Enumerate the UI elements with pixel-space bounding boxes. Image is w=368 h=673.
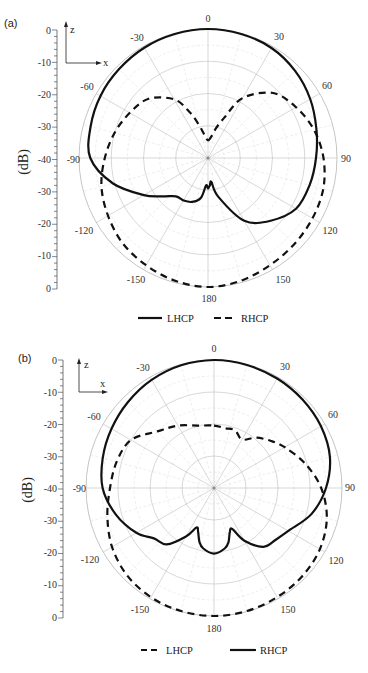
- radial-scale-axis: 0 -10 -20 -30 -40 -30 -20 -10 0: [38, 25, 57, 294]
- legend-label: LHCP: [167, 313, 194, 324]
- panel-b: (b) 0 -10 -20 -30 -40 -30 -20 -10 0 (dB)…: [18, 343, 355, 656]
- angle-label: -90: [73, 483, 86, 494]
- arrow-right-icon: [96, 61, 102, 65]
- scale-tick: -20: [44, 419, 57, 430]
- legend: LHCP RHCP: [141, 645, 288, 656]
- angle-label: 120: [329, 555, 344, 566]
- scale-tick: -20: [44, 547, 57, 558]
- angle-label: -120: [81, 554, 99, 565]
- angle-label: -120: [75, 225, 93, 236]
- angle-label: 0: [206, 13, 211, 24]
- lhcp-curve: [107, 425, 326, 616]
- panel-label: (a): [4, 17, 17, 29]
- polar-grid: [79, 29, 337, 287]
- scale-tick: -30: [38, 121, 51, 132]
- legend-label: RHCP: [241, 313, 269, 324]
- panel-a: (a) 0 -10 -20 -30 -40 -30 -20 -10 0 (dB)…: [4, 13, 351, 324]
- legend: LHCP RHCP: [138, 313, 269, 324]
- scale-tick: -40: [38, 154, 51, 165]
- angle-label: 180: [207, 623, 222, 634]
- angle-label: -60: [80, 81, 93, 92]
- angle-label: -60: [87, 411, 100, 422]
- angle-label: 150: [276, 274, 291, 285]
- x-axis-label: x: [100, 378, 106, 389]
- angle-label: 90: [345, 482, 355, 493]
- scale-tick: -10: [38, 250, 51, 261]
- z-axis-label: z: [70, 24, 75, 35]
- angle-label: 0: [212, 343, 217, 354]
- angle-label: 90: [341, 153, 351, 164]
- scale-tick: -10: [44, 579, 57, 590]
- y-axis-label: (dB): [16, 149, 32, 175]
- angle-label: -30: [136, 362, 149, 373]
- scale-tick: 0: [52, 612, 57, 623]
- scale-tick: -10: [38, 57, 51, 68]
- angle-label: -90: [67, 154, 80, 165]
- legend-label: RHCP: [260, 645, 288, 656]
- scale-tick: -30: [44, 515, 57, 526]
- polar-grid: [86, 360, 342, 616]
- angle-label: 60: [322, 80, 332, 91]
- angle-label: -150: [127, 274, 145, 285]
- radial-scale-axis: 0 -10 -20 -30 -40 -30 -20 -10 0: [44, 355, 63, 623]
- y-axis-label: (dB): [20, 477, 36, 503]
- arrow-up-icon: [77, 358, 81, 364]
- angle-label: 60: [328, 409, 338, 420]
- angle-label: 150: [281, 604, 296, 615]
- arrow-right-icon: [102, 390, 108, 394]
- angle-label: 120: [323, 225, 338, 236]
- scale-tick: -30: [38, 186, 51, 197]
- scale-tick: 0: [52, 355, 57, 366]
- scale-tick: -20: [38, 89, 51, 100]
- scale-tick: -30: [44, 451, 57, 462]
- angle-label: 30: [280, 361, 290, 372]
- coordinate-inset: z x: [77, 358, 108, 394]
- angle-label: 30: [274, 31, 284, 42]
- scale-tick: 0: [46, 283, 51, 294]
- arrow-up-icon: [64, 21, 68, 27]
- x-axis-label: x: [103, 57, 109, 68]
- angle-label: 180: [202, 293, 217, 304]
- scale-tick: -10: [44, 387, 57, 398]
- scale-tick: -20: [38, 218, 51, 229]
- polar-figure: (a) 0 -10 -20 -30 -40 -30 -20 -10 0 (dB)…: [0, 0, 368, 673]
- angle-label: -150: [131, 604, 149, 615]
- scale-tick: 0: [46, 25, 51, 36]
- scale-tick: -40: [44, 483, 57, 494]
- angle-label: -30: [130, 32, 143, 43]
- coordinate-inset: z x: [64, 21, 109, 68]
- legend-label: LHCP: [166, 645, 193, 656]
- panel-label: (b): [18, 352, 31, 364]
- z-axis-label: z: [84, 359, 89, 370]
